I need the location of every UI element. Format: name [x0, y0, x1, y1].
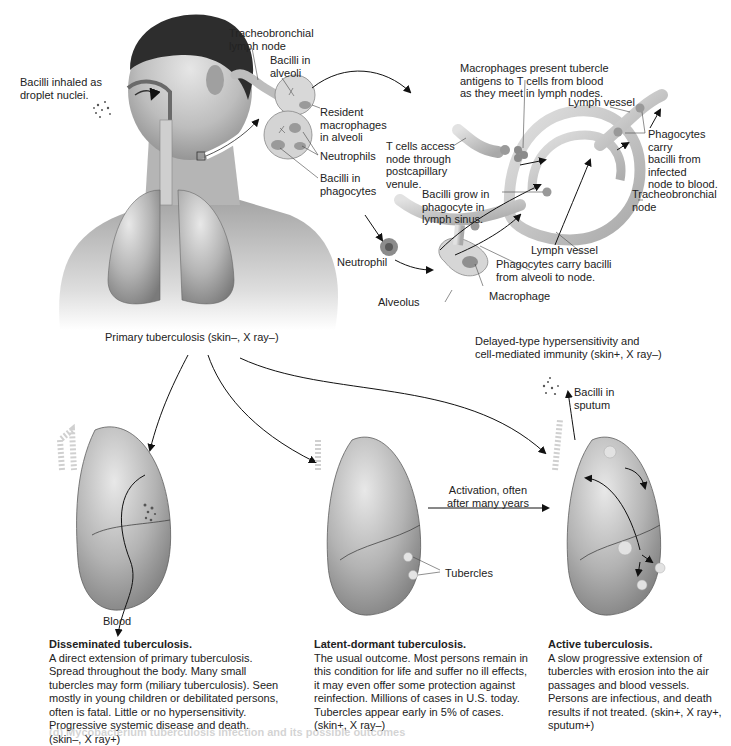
- label-lymph-vessel-bottom: Lymph vessel: [531, 244, 598, 257]
- title-latent: Latent-dormant tuberculosis.: [314, 638, 529, 652]
- label-tracheobronchial-lymph-node: Tracheobronchial lymph node: [229, 27, 314, 52]
- body-active: A slow progressive extension of tubercle…: [548, 652, 728, 733]
- label-phagocytes-to-blood: Phagocytes carry bacilli from infected n…: [648, 128, 731, 191]
- title-disseminated: Disseminated tuberculosis.: [49, 638, 279, 652]
- label-tracheobronchial-node: Tracheobronchial node: [632, 188, 717, 213]
- label-phagocytes-to-node: Phagocytes carry bacilli from alveoli to…: [496, 258, 612, 283]
- label-resident-macrophages: Resident macrophages in alveoli: [320, 106, 387, 144]
- bleed-through-caption: (d) Mycobacterium tuberculosis infection…: [49, 726, 405, 738]
- label-tubercles: Tubercles: [445, 567, 493, 580]
- label-neutrophils: Neutrophils: [320, 150, 376, 163]
- caption-primary-tuberculosis: Primary tuberculosis (skin–, X ray–): [105, 331, 279, 344]
- lung-latent: [318, 437, 440, 615]
- title-active: Active tuberculosis.: [548, 638, 728, 652]
- label-bacilli-in-phagocytes: Bacilli in phagocytes: [320, 172, 376, 197]
- label-bacilli-in-alveoli: Bacilli in alveoli: [270, 54, 310, 79]
- label-bacilli-grow: Bacilli grow in phagocyte in lymph sinus…: [422, 188, 489, 226]
- caption-hypersensitivity-line1: Delayed-type hypersensitivity and: [475, 335, 639, 348]
- label-activation: Activation, often after many years: [447, 484, 529, 509]
- label-bacilli-in-sputum: Bacilli in sputum: [574, 386, 614, 411]
- label-blood: Blood: [103, 615, 131, 628]
- label-lymph-vessel-top: Lymph vessel: [568, 96, 635, 109]
- label-alveolus: Alveolus: [378, 296, 420, 309]
- body-latent: The usual outcome. Most persons remain i…: [314, 652, 529, 733]
- label-neutrophil: Neutrophil: [337, 256, 387, 269]
- label-t-cells-access: T cells access node through postcapillar…: [386, 140, 455, 190]
- lung-disseminated: [60, 427, 171, 635]
- lung-active: [543, 377, 665, 615]
- description-active: Active tuberculosis. A slow progressive …: [548, 638, 728, 733]
- label-macrophage: Macrophage: [489, 290, 550, 303]
- caption-hypersensitivity-line2: cell-mediated immunity (skin+, X ray–): [475, 348, 662, 361]
- label-bacilli-inhaled: Bacilli inhaled as droplet nuclei.: [20, 76, 102, 101]
- sputum-dots: [543, 377, 559, 395]
- label-macrophages-present-antigens: Macrophages present tubercle antigens to…: [460, 62, 609, 100]
- description-latent: Latent-dormant tuberculosis. The usual o…: [314, 638, 529, 733]
